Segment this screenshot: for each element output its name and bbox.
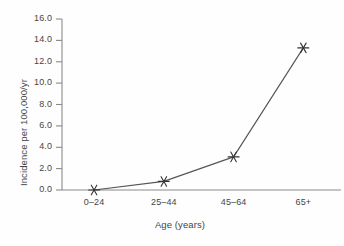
x-tick-label-0: 0–24: [64, 197, 124, 207]
data-point-marker: [158, 177, 169, 187]
y-tick-label-8: 16.0: [14, 13, 52, 23]
y-axis-label: Incidence per 100,000/yr: [18, 79, 29, 186]
x-axis-label: Age (years): [80, 219, 280, 230]
data-series-line: [94, 48, 303, 190]
y-tick-label-7: 14.0: [14, 34, 52, 44]
data-point-marker: [298, 43, 309, 53]
x-tick-label-2: 45–64: [204, 197, 264, 207]
data-point-markers: [89, 43, 309, 195]
y-axis-ticks: [56, 19, 62, 190]
chart-figure: 0.0 2.0 4.0 6.0 8.0 10.0 12.0 14.0 16.0 …: [0, 0, 344, 246]
data-point-marker: [89, 185, 100, 195]
x-tick-label-3: 65+: [273, 197, 333, 207]
y-tick-label-6: 12.0: [14, 56, 52, 66]
x-tick-label-1: 25–44: [134, 197, 194, 207]
data-point-marker: [228, 152, 239, 162]
